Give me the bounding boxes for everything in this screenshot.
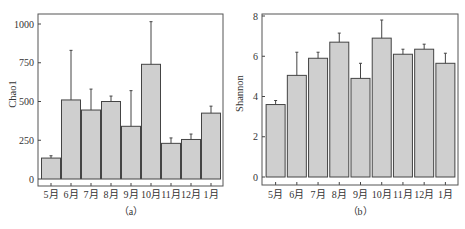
bar-2 xyxy=(62,100,81,179)
x-tick-label: 7月 xyxy=(84,189,99,200)
bar-4 xyxy=(330,42,349,177)
bar-5 xyxy=(122,126,141,179)
x-tick-label: 1月 xyxy=(204,189,219,200)
bar-1 xyxy=(266,105,285,177)
x-tick-label: 11月 xyxy=(161,189,181,200)
bar-1 xyxy=(42,158,61,179)
x-tick-label: 10月 xyxy=(141,189,161,200)
y-tick-label: 2 xyxy=(253,131,258,142)
y-tick-label: 0 xyxy=(29,174,34,185)
x-tick-label: 9月 xyxy=(124,189,139,200)
bar-7 xyxy=(393,54,412,177)
chart-canvas: 5月6月7月8月9月10月11月12月1月02505007501000Chao1… xyxy=(0,0,465,229)
x-tick-label: 1月 xyxy=(438,189,453,200)
panel-caption: （b） xyxy=(348,206,373,217)
x-tick-label: 10月 xyxy=(372,189,392,200)
bar-6 xyxy=(372,38,391,177)
x-tick-label: 5月 xyxy=(44,189,59,200)
y-axis-label: Shannon xyxy=(234,74,245,112)
chart-panel-chao1: 5月6月7月8月9月10月11月12月1月02505007501000Chao1… xyxy=(7,14,223,217)
x-tick-label: 12月 xyxy=(181,189,201,200)
y-tick-label: 1000 xyxy=(14,19,34,30)
bar-3 xyxy=(309,58,328,177)
x-tick-label: 11月 xyxy=(393,189,413,200)
y-tick-label: 8 xyxy=(253,11,258,22)
chart-panel-shannon: 5月6月7月8月9月10月11月12月1月02468Shannon（b） xyxy=(234,11,458,218)
x-tick-label: 6月 xyxy=(289,189,304,200)
y-tick-label: 750 xyxy=(19,57,34,68)
bar-8 xyxy=(415,49,434,177)
bar-2 xyxy=(287,75,306,177)
bar-8 xyxy=(182,139,201,179)
x-tick-label: 8月 xyxy=(332,189,347,200)
x-tick-label: 9月 xyxy=(353,189,368,200)
bar-6 xyxy=(142,64,161,179)
y-tick-label: 0 xyxy=(253,172,258,183)
x-tick-label: 8月 xyxy=(104,189,119,200)
x-tick-label: 7月 xyxy=(311,189,326,200)
x-tick-label: 12月 xyxy=(414,189,434,200)
panel-caption: （a） xyxy=(119,206,143,217)
y-tick-label: 500 xyxy=(19,96,34,107)
x-tick-label: 6月 xyxy=(64,189,79,200)
y-tick-label: 250 xyxy=(19,135,34,146)
bar-4 xyxy=(102,102,121,180)
bar-3 xyxy=(82,110,101,179)
bar-9 xyxy=(436,63,455,177)
y-tick-label: 6 xyxy=(253,51,258,62)
x-tick-label: 5月 xyxy=(268,189,283,200)
y-tick-label: 4 xyxy=(253,91,258,102)
bar-5 xyxy=(351,78,370,177)
y-axis-label: Chao1 xyxy=(7,80,18,107)
bar-7 xyxy=(162,143,181,179)
bar-9 xyxy=(202,113,221,179)
